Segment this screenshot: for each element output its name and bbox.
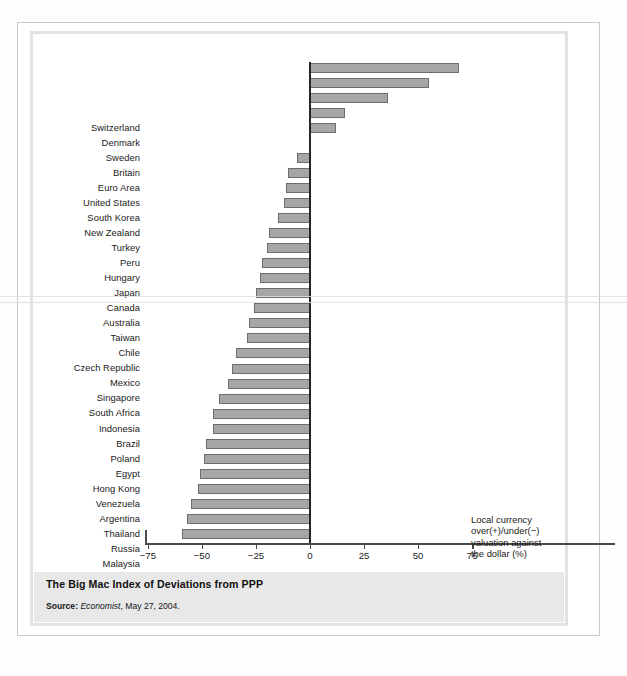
axis-tick — [364, 543, 365, 549]
category-label: South Africa — [89, 405, 140, 420]
category-label: Hungary — [104, 270, 140, 285]
category-label: Argentina — [99, 511, 140, 526]
bar — [191, 499, 310, 509]
bar — [284, 198, 310, 208]
bar — [310, 78, 429, 88]
bar — [228, 379, 310, 389]
bar — [232, 364, 310, 374]
bar — [269, 228, 310, 238]
axis-tick-label: 0 — [290, 550, 330, 561]
bar — [182, 529, 310, 539]
category-label: Australia — [103, 315, 140, 330]
category-label: Chile — [118, 345, 140, 360]
category-label: Poland — [111, 451, 141, 466]
figure-page: SwitzerlandDenmarkSwedenBritainEuro Area… — [0, 0, 627, 676]
axis-tick-label: −75 — [128, 550, 168, 561]
axis-tick — [256, 543, 257, 549]
scan-artifact-2 — [0, 302, 627, 303]
bar — [260, 273, 310, 283]
category-label: Singapore — [97, 390, 140, 405]
axis-annotation: Local currency over(+)/under(−) valuatio… — [471, 514, 581, 560]
category-label: Czech Republic — [74, 360, 140, 375]
axis-tick-label: 25 — [344, 550, 384, 561]
source-label: Source: — [46, 601, 78, 611]
category-label: Turkey — [111, 240, 140, 255]
category-label: Peru — [120, 255, 140, 270]
source-date: , May 27, 2004. — [121, 601, 180, 611]
axis-tick-label: −50 — [182, 550, 222, 561]
bar — [310, 93, 388, 103]
category-label: Switzerland — [91, 120, 140, 135]
bar — [213, 409, 310, 419]
bar — [267, 243, 310, 253]
category-label: Britain — [113, 165, 140, 180]
bar — [310, 123, 336, 133]
annotation-line-4: the dollar (%) — [471, 548, 581, 559]
bar — [310, 63, 459, 73]
category-label: Euro Area — [98, 180, 140, 195]
figure-source: Source: Economist, May 27, 2004. — [46, 601, 180, 611]
bar — [213, 424, 310, 434]
axis-tick — [310, 543, 311, 549]
axis-tick — [418, 543, 419, 549]
category-label: Japan — [114, 285, 140, 300]
bar — [187, 514, 310, 524]
bar — [247, 333, 310, 343]
category-label: Brazil — [116, 436, 140, 451]
bar — [254, 303, 310, 313]
annotation-line-3: valuation against — [471, 537, 581, 548]
category-label: United States — [83, 195, 140, 210]
category-label: New Zealand — [84, 225, 140, 240]
axis-tick-label: 50 — [398, 550, 438, 561]
category-label: Denmark — [102, 135, 140, 150]
annotation-line-1: Local currency — [471, 514, 581, 525]
zero-axis-line — [309, 62, 311, 544]
axis-left-cap — [145, 530, 147, 544]
bar — [206, 439, 310, 449]
bar — [198, 484, 310, 494]
source-publication: Economist — [80, 601, 120, 611]
bar — [204, 454, 310, 464]
category-label: Egypt — [116, 466, 140, 481]
bar — [200, 469, 310, 479]
bar — [310, 108, 345, 118]
category-label: Indonesia — [99, 421, 140, 436]
annotation-line-2: over(+)/under(−) — [471, 525, 581, 536]
bar — [278, 213, 310, 223]
axis-tick-label: −25 — [236, 550, 276, 561]
category-label: South Korea — [87, 210, 140, 225]
category-label: Taiwan — [111, 330, 140, 345]
bar — [288, 168, 310, 178]
axis-tick — [202, 543, 203, 549]
category-label: Venezuela — [96, 496, 140, 511]
figure-caption-title: The Big Mac Index of Deviations from PPP — [46, 578, 263, 590]
bar — [286, 183, 310, 193]
bar — [262, 258, 310, 268]
category-label: Mexico — [110, 375, 140, 390]
category-label: Sweden — [106, 150, 140, 165]
caption-divider — [34, 571, 564, 572]
category-label: Thailand — [104, 526, 140, 541]
scan-artifact-1 — [0, 296, 627, 297]
category-label: Hong Kong — [93, 481, 140, 496]
bar — [219, 394, 310, 404]
bar — [236, 348, 310, 358]
axis-tick — [148, 543, 149, 549]
bar — [249, 318, 310, 328]
